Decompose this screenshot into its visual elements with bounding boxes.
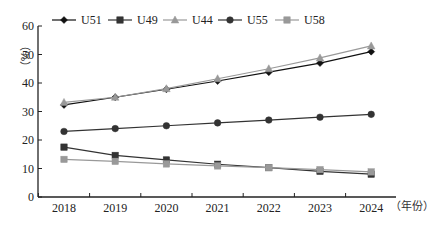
x-axis-unit: （年份）: [390, 199, 434, 213]
y-axis-unit: （%）: [18, 40, 31, 72]
legend-item-u58: U58: [275, 13, 325, 27]
square-marker-icon: [317, 166, 323, 172]
circle-marker-icon: [317, 114, 324, 121]
square-marker-icon: [266, 164, 272, 170]
legend-label: U44: [192, 13, 213, 27]
legend-item-u49: U49: [108, 13, 158, 27]
circle-marker-icon: [112, 125, 119, 132]
x-tick-label: 2018: [52, 201, 76, 215]
circle-marker-icon: [266, 117, 273, 124]
y-tick-label: 60: [22, 19, 34, 33]
series-line: [64, 46, 371, 102]
circle-marker-icon: [368, 111, 375, 118]
square-marker-icon: [368, 169, 374, 175]
square-marker-icon: [112, 152, 118, 158]
y-tick-label: 10: [22, 162, 34, 176]
x-tick-label: 2021: [206, 201, 230, 215]
square-marker-icon: [61, 144, 67, 150]
square-marker-icon: [112, 158, 118, 164]
axes: 0102030405060201820192020202120222023202…: [22, 19, 396, 215]
y-tick-label: 20: [22, 133, 34, 147]
square-marker-icon: [61, 156, 67, 162]
circle-marker-icon: [61, 128, 68, 135]
legend: U51U49U44U55U58: [52, 13, 325, 27]
legend-label: U51: [81, 13, 102, 27]
series-group: [60, 42, 375, 177]
x-tick-label: 2020: [154, 201, 178, 215]
legend-label: U58: [304, 13, 325, 27]
x-tick-label: 2019: [103, 201, 127, 215]
square-legend-icon: [284, 17, 290, 23]
line-chart: U51U49U44U55U58 010203040506020182019202…: [0, 0, 446, 226]
series-u44: [60, 42, 375, 105]
legend-item-u44: U44: [163, 13, 213, 27]
square-marker-icon: [163, 161, 169, 167]
series-u55: [61, 111, 375, 135]
diamond-legend-icon: [61, 17, 68, 24]
circle-marker-icon: [214, 120, 221, 127]
legend-item-u51: U51: [52, 13, 102, 27]
x-tick-label: 2023: [308, 201, 332, 215]
y-tick-label: 40: [22, 76, 34, 90]
square-marker-icon: [214, 163, 220, 169]
legend-label: U55: [247, 13, 268, 27]
y-tick-label: 30: [22, 105, 34, 119]
legend-label: U49: [137, 13, 158, 27]
circle-legend-icon: [227, 17, 234, 24]
x-tick-label: 2024: [359, 201, 383, 215]
y-tick-label: 0: [28, 190, 34, 204]
square-legend-icon: [117, 17, 123, 23]
circle-marker-icon: [163, 122, 170, 129]
legend-item-u55: U55: [218, 13, 268, 27]
triangle-marker-icon: [367, 42, 375, 49]
x-tick-label: 2022: [257, 201, 281, 215]
